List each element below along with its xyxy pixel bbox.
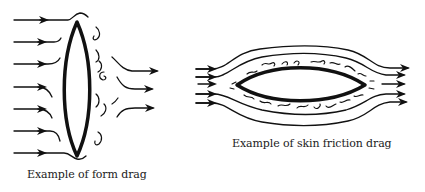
form-drag-body bbox=[64, 22, 90, 156]
skin-friction-streamlines bbox=[196, 46, 408, 126]
form-drag-caption: Example of form drag bbox=[27, 168, 147, 181]
form-drag-eddies bbox=[93, 27, 118, 145]
skin-friction-caption: Example of skin friction drag bbox=[232, 137, 392, 150]
form-drag-diagram bbox=[14, 13, 157, 159]
skin-friction-diagram bbox=[196, 46, 408, 126]
drag-diagram-svg bbox=[0, 0, 425, 192]
drag-diagram-figure: Example of form drag Example of skin fri… bbox=[0, 0, 425, 192]
skin-friction-body bbox=[237, 68, 365, 101]
form-drag-outgoing-arrows bbox=[112, 57, 157, 117]
form-drag-incoming-arrows bbox=[14, 13, 88, 159]
